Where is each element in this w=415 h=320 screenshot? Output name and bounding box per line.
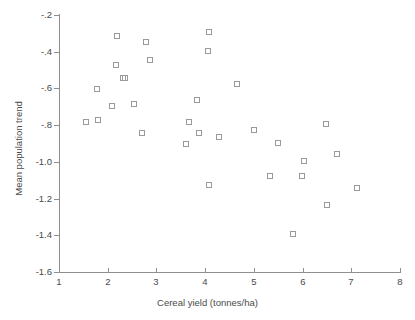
- y-axis-tick-label: -1.4: [36, 230, 52, 240]
- data-point: [131, 101, 137, 107]
- data-point: [94, 86, 100, 92]
- data-point: [251, 127, 257, 133]
- x-axis-tick-label: 2: [98, 277, 118, 287]
- data-point: [275, 140, 281, 146]
- data-point: [301, 158, 307, 164]
- data-point: [323, 121, 329, 127]
- y-axis-tick-label: -1.0: [36, 157, 52, 167]
- x-axis-tick-label: 1: [49, 277, 69, 287]
- data-point: [267, 173, 273, 179]
- x-axis-tick-label: 6: [293, 277, 313, 287]
- y-axis-tick-labels: -.2-.4-.6-.8-1.0-1.2-1.4-1.6: [0, 0, 52, 320]
- data-point: [216, 134, 222, 140]
- data-point: [122, 75, 128, 81]
- y-axis-tick-label: -1.2: [36, 194, 52, 204]
- x-axis-title: Cereal yield (tonnes/ha): [0, 297, 415, 308]
- data-point: [324, 202, 330, 208]
- x-axis-tick-label: 5: [244, 277, 264, 287]
- x-axis-tick-label: 4: [195, 277, 215, 287]
- y-axis-tick-label: -.2: [41, 10, 52, 20]
- data-point: [147, 57, 153, 63]
- data-point: [114, 33, 120, 39]
- data-point: [186, 119, 192, 125]
- data-point: [206, 29, 212, 35]
- y-axis-tick-label: -.6: [41, 83, 52, 93]
- data-point: [299, 173, 305, 179]
- x-axis-tick-label: 7: [341, 277, 361, 287]
- x-axis-tick: [400, 268, 401, 273]
- y-axis-tick-label: -1.6: [36, 267, 52, 277]
- data-point: [143, 39, 149, 45]
- data-point: [234, 81, 240, 87]
- data-point: [83, 119, 89, 125]
- y-axis-title: Mean population trend: [13, 79, 24, 219]
- data-point: [205, 48, 211, 54]
- scatter-chart-figure: -.2-.4-.6-.8-1.0-1.2-1.4-1.6 12345678 Ce…: [0, 0, 415, 320]
- x-axis-tick-label: 8: [390, 277, 410, 287]
- y-axis-tick-label: -.8: [41, 120, 52, 130]
- data-point: [354, 185, 360, 191]
- y-axis-tick-label: -.4: [41, 47, 52, 57]
- x-axis-tick-label: 3: [146, 277, 166, 287]
- data-point: [290, 231, 296, 237]
- data-point: [196, 130, 202, 136]
- data-point: [113, 62, 119, 68]
- data-point: [194, 97, 200, 103]
- x-axis-line: [59, 272, 401, 273]
- plot-area: [59, 15, 400, 272]
- data-point: [95, 117, 101, 123]
- data-point: [139, 130, 145, 136]
- data-point: [206, 182, 212, 188]
- data-point: [334, 151, 340, 157]
- data-point: [109, 103, 115, 109]
- data-point: [183, 141, 189, 147]
